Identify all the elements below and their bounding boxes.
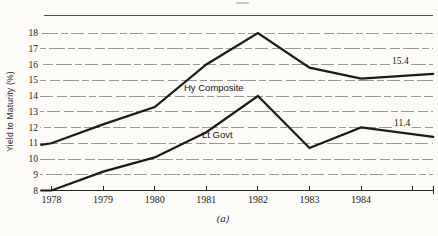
y-tick-label: 13 <box>14 106 38 118</box>
x-tick-label: 1979 <box>85 194 121 206</box>
x-tick-label: 1978 <box>34 194 70 206</box>
x-tick-label: 1983 <box>292 194 328 206</box>
end-value-label-lt-govt: 11.4 <box>392 118 412 128</box>
y-tick-label: 17 <box>14 43 38 55</box>
y-tick-label: 12 <box>14 122 38 134</box>
y-tick-label: 16 <box>14 59 38 71</box>
scan-artifact-mark <box>236 2 249 4</box>
figure: Yield to Maturity (%) 891011121314151617… <box>0 0 438 236</box>
y-tick-label: 18 <box>14 27 38 39</box>
y-tick-label: 10 <box>14 153 38 165</box>
y-tick-label: 14 <box>14 90 38 102</box>
x-tick-label: 1984 <box>343 194 379 206</box>
figure-caption: (a) <box>205 213 241 224</box>
x-tick-label: 1982 <box>240 194 276 206</box>
y-tick-label: 9 <box>14 169 38 181</box>
end-value-label-hy-composite: 15.4 <box>390 56 411 66</box>
x-tick-label: 1981 <box>188 194 224 206</box>
x-tick-label: 1980 <box>137 194 173 206</box>
series-label-hy-composite: Hy Composite <box>184 82 244 93</box>
y-tick-label: 11 <box>14 137 38 149</box>
y-tick-label: 15 <box>14 74 38 86</box>
series-label-lt-govt: Lt Govt <box>202 129 233 140</box>
